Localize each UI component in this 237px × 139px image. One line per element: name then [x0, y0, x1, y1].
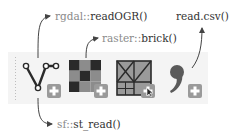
- label-function: st_read(): [73, 118, 120, 130]
- add-badge-icon[interactable]: [141, 84, 155, 98]
- label-sf-st-read: sf::st_read(): [57, 118, 121, 130]
- label-function: brick(): [141, 32, 177, 44]
- label-function: read.csv(): [176, 10, 229, 22]
- label-namespace: raster::: [102, 32, 141, 44]
- label-rgdal-readogr: rgdal::readOGR(): [55, 10, 147, 22]
- label-read-csv: read.csv(): [176, 10, 229, 22]
- text-file-icon[interactable]: [168, 64, 186, 94]
- label-namespace: rgdal::: [55, 10, 90, 22]
- label-function: readOGR(): [90, 10, 147, 22]
- label-raster-brick: raster::brick(): [102, 32, 177, 44]
- label-namespace: sf::: [57, 118, 73, 130]
- add-badge-icon[interactable]: [47, 84, 61, 98]
- add-badge-icon[interactable]: [188, 84, 202, 98]
- add-badge-icon[interactable]: [94, 84, 108, 98]
